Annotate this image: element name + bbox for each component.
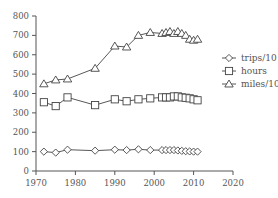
- legend-label: hours: [241, 66, 267, 76]
- triangle-icon: [225, 80, 233, 87]
- triangle-marker: [63, 75, 71, 82]
- y-tick-label: 500: [13, 69, 29, 79]
- y-tick-label: 100: [13, 147, 29, 157]
- square-marker: [111, 96, 118, 103]
- legend-item: hours: [222, 66, 267, 76]
- y-tick-label: 600: [13, 50, 29, 60]
- diamond-marker: [147, 146, 154, 153]
- square-marker: [194, 97, 201, 104]
- y-tick-label: 700: [13, 30, 29, 40]
- legend-item: miles/10: [222, 79, 278, 89]
- y-tick-label: 200: [13, 127, 29, 137]
- triangle-marker: [111, 42, 119, 49]
- line-chart: 0100200300400500600700800197019801990200…: [0, 0, 278, 198]
- square-marker: [135, 96, 142, 103]
- y-tick-label: 0: [24, 166, 29, 176]
- series-trips-10: [40, 146, 201, 156]
- legend-label: trips/10: [241, 53, 277, 63]
- square-marker: [40, 99, 47, 106]
- legend-label: miles/10: [241, 79, 278, 89]
- x-tick-label: 2000: [143, 178, 165, 188]
- square-marker: [123, 98, 130, 105]
- diamond-marker: [40, 148, 47, 155]
- x-tick-label: 2010: [183, 178, 205, 188]
- square-marker: [147, 95, 154, 102]
- square-marker: [52, 102, 59, 109]
- series-miles-10: [40, 28, 202, 87]
- square-marker: [92, 102, 99, 109]
- x-tick-label: 2020: [222, 178, 244, 188]
- y-tick-label: 300: [13, 108, 29, 118]
- square-icon: [225, 67, 232, 74]
- x-tick-label: 1980: [65, 178, 87, 188]
- diamond-marker: [135, 146, 142, 153]
- diamond-marker: [64, 146, 71, 153]
- x-tick-label: 1970: [25, 178, 47, 188]
- x-tick-label: 1990: [104, 178, 126, 188]
- diamond-marker: [92, 147, 99, 154]
- diamond-marker: [111, 146, 118, 153]
- diamond-marker: [52, 149, 59, 156]
- series-hours: [40, 93, 201, 110]
- square-marker: [64, 94, 71, 101]
- legend-item: trips/10: [222, 53, 277, 63]
- diamond-icon: [225, 54, 232, 61]
- triangle-marker: [146, 29, 154, 36]
- diamond-marker: [123, 146, 130, 153]
- y-tick-label: 400: [13, 89, 29, 99]
- y-tick-label: 800: [13, 11, 29, 21]
- chart-canvas: 0100200300400500600700800197019801990200…: [0, 0, 278, 198]
- legend: trips/10hoursmiles/10: [222, 53, 278, 89]
- series-group: [40, 28, 202, 157]
